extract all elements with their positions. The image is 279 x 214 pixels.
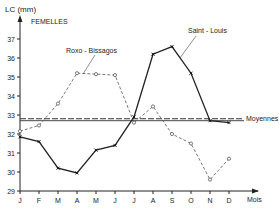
annotation-leader-saint-louis xyxy=(180,36,196,58)
y-tick-label: 30 xyxy=(7,169,15,176)
chart-labels: LC (mm) FEMELLES Mois Saint - Louis Roxo… xyxy=(5,5,279,203)
x-axis-label: Mois xyxy=(247,196,262,203)
y-tick-label: 37 xyxy=(7,36,15,43)
x-tick-label: M xyxy=(93,197,99,204)
x-tick-label: J xyxy=(113,197,117,204)
x-tick-label: A xyxy=(75,197,80,204)
x-tick-label: J xyxy=(132,197,136,204)
data-point xyxy=(56,102,59,105)
data-point xyxy=(94,73,97,76)
legend-moyennes: Moyennes xyxy=(246,115,279,123)
x-tick-label: S xyxy=(170,197,175,204)
y-axis-arrow-icon xyxy=(18,15,23,22)
panel-title: FEMELLES xyxy=(31,18,68,25)
x-tick-label: D xyxy=(226,197,231,204)
data-point xyxy=(208,178,211,181)
annotation-roxo-bissagos: Roxo - Bissagos xyxy=(66,47,117,55)
data-point xyxy=(170,132,173,135)
series-line-saint-louis xyxy=(20,47,229,173)
data-point xyxy=(75,72,78,75)
y-tick-label: 36 xyxy=(7,55,15,62)
annotation-leader-roxo xyxy=(83,55,95,74)
annotation-saint-louis: Saint - Louis xyxy=(188,27,227,34)
x-axis-arrow-icon xyxy=(252,189,259,194)
data-point xyxy=(132,121,135,124)
x-tick-label: O xyxy=(188,197,194,204)
series-group xyxy=(18,45,230,181)
y-tick-label: 33 xyxy=(7,112,15,119)
y-tick-label: 34 xyxy=(7,93,15,100)
data-point xyxy=(227,157,230,160)
x-tick-label: F xyxy=(37,197,41,204)
y-tick-label: 32 xyxy=(7,131,15,138)
y-axis-label: LC (mm) xyxy=(5,5,36,14)
x-tick-label: M xyxy=(55,197,61,204)
x-tick-label: J xyxy=(18,197,22,204)
data-point xyxy=(18,130,21,133)
x-tick-label: N xyxy=(207,197,212,204)
y-tick-label: 35 xyxy=(7,74,15,81)
x-tick-label: A xyxy=(151,197,156,204)
y-tick-label: 31 xyxy=(7,150,15,157)
data-point xyxy=(37,124,40,127)
y-tick-label: 29 xyxy=(7,188,15,195)
line-chart: 293031323334353637JFMAMJJASOND LC (mm) F… xyxy=(0,0,279,214)
data-point xyxy=(189,142,192,145)
data-point xyxy=(151,105,154,108)
data-point xyxy=(113,74,116,77)
axes: 293031323334353637JFMAMJJASOND xyxy=(7,15,259,204)
